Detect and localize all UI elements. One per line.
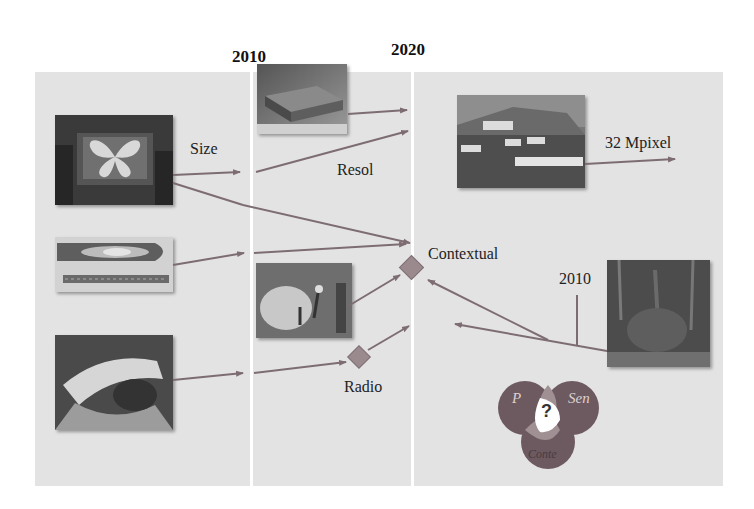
radio-diamond — [348, 346, 371, 369]
contextual-diamond — [399, 255, 423, 279]
radio-arrow — [368, 326, 409, 350]
radio-label: Radio — [344, 378, 382, 396]
slab-arrow — [348, 110, 407, 114]
paper-arrow — [173, 373, 243, 380]
venn-question-mark: ? — [541, 401, 552, 422]
venn-label-p: P — [512, 390, 521, 407]
contextual-label: Contextual — [428, 245, 498, 263]
venn-label-conte: Conte — [528, 447, 557, 462]
mpixel-arrow — [585, 159, 675, 164]
diagram-canvas: 2010 2020 — [0, 0, 754, 509]
texture-to-contextual-arrow — [428, 280, 548, 340]
inner-year-label: 2010 — [559, 270, 591, 288]
connector-layer — [0, 0, 754, 509]
size-label: Size — [190, 140, 218, 158]
texture-to-left-arrow — [455, 324, 607, 351]
resol-label: Resol — [337, 161, 373, 179]
display-to-contextual-arrow-b — [243, 205, 410, 243]
mpixel-label: 32 Mpixel — [605, 134, 671, 152]
paper-to-radio-arrow — [254, 362, 346, 373]
flexible-arrow — [173, 253, 244, 265]
size-arrow — [173, 172, 240, 175]
venn-label-sen: Sen — [568, 390, 590, 407]
scene-to-contextual-arrow — [350, 275, 400, 305]
size-to-resol-arrow — [256, 131, 408, 172]
flexible-to-contextual-arrow — [254, 244, 406, 253]
display-to-contextual-arrow-a — [173, 183, 243, 205]
